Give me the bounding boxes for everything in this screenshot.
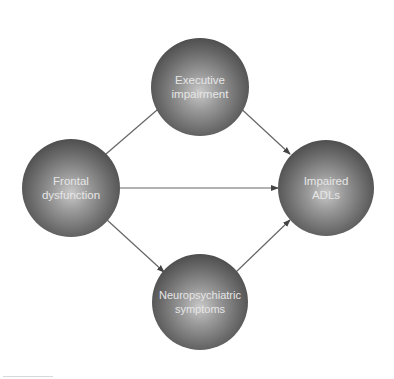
node-label: Impaired ADLs: [304, 174, 349, 202]
node-label: Neuropsychiatric symptoms: [159, 288, 241, 316]
node-impaired-adls: Impaired ADLs: [278, 140, 374, 236]
node-frontal-dysfunction: Frontal dysfunction: [22, 139, 120, 237]
edge-frontal-to-neuro: [106, 219, 164, 272]
node-executive-impairment: Executive impairment: [151, 38, 249, 136]
edge-executive-to-adls: [236, 104, 290, 154]
node-label: Frontal dysfunction: [42, 174, 100, 202]
edge-frontal-to-executive: [106, 104, 164, 154]
node-label: Executive impairment: [172, 73, 229, 101]
footer-divider: [3, 376, 53, 377]
node-neuropsychiatric-symptoms: Neuropsychiatric symptoms: [152, 254, 248, 350]
edge-neuro-to-adls: [236, 220, 290, 272]
